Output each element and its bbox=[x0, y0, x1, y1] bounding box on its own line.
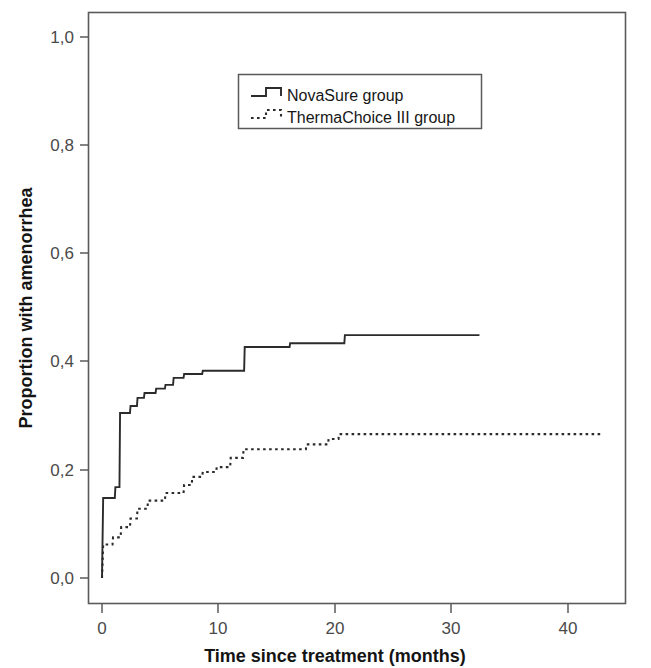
chart-canvas: 1,0 0,8 0,6 0,4 0,2 0,0 0 10 20 30 40 Ti… bbox=[0, 0, 651, 668]
legend: NovaSure group ThermaChoice III group bbox=[239, 75, 482, 129]
legend-label-thermachoice: ThermaChoice III group bbox=[287, 109, 455, 126]
y-tick-label: 0,2 bbox=[50, 461, 74, 480]
series-thermachoice-line bbox=[102, 434, 603, 578]
y-tick-label: 0,4 bbox=[50, 352, 74, 371]
x-tick-label: 30 bbox=[442, 619, 461, 638]
y-tick-label: 0,6 bbox=[50, 244, 74, 263]
x-axis-tick-labels: 0 10 20 30 40 bbox=[97, 619, 577, 638]
x-tick-label: 10 bbox=[209, 619, 228, 638]
series-novasure-line bbox=[102, 335, 479, 578]
x-tick-label: 20 bbox=[326, 619, 345, 638]
y-tick-label: 0,8 bbox=[50, 136, 74, 155]
series-group bbox=[102, 335, 603, 578]
y-axis-title: Proportion with amenorrhea bbox=[16, 187, 36, 429]
x-tick-label: 40 bbox=[559, 619, 578, 638]
y-axis-ticks bbox=[80, 37, 88, 578]
y-axis-tick-labels: 1,0 0,8 0,6 0,4 0,2 0,0 bbox=[50, 28, 74, 588]
x-tick-label: 0 bbox=[97, 619, 106, 638]
x-axis-title: Time since treatment (months) bbox=[204, 646, 466, 666]
legend-label-novasure: NovaSure group bbox=[287, 87, 404, 104]
kaplan-meier-figure: 1,0 0,8 0,6 0,4 0,2 0,0 0 10 20 30 40 Ti… bbox=[0, 0, 651, 668]
y-tick-label: 0,0 bbox=[50, 569, 74, 588]
y-tick-label: 1,0 bbox=[50, 28, 74, 47]
x-axis-ticks bbox=[102, 604, 568, 613]
